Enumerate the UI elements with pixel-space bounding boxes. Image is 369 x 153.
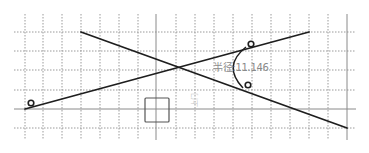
tangent-point-marker[interactable]: [248, 41, 254, 47]
sketch-canvas[interactable]: [0, 0, 369, 153]
tangent-point-marker[interactable]: [245, 82, 251, 88]
tangent-point-marker[interactable]: [28, 100, 34, 106]
origin-square[interactable]: [145, 98, 169, 122]
radius-dimension-label[interactable]: 半径:11.146: [213, 59, 269, 74]
sketch-geometry[interactable]: [25, 32, 347, 128]
faint-annotation: 上门: [189, 93, 199, 107]
